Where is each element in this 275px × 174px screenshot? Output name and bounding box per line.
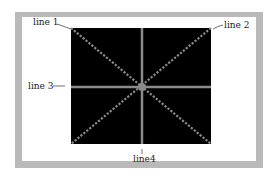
leader-line-2 (213, 25, 223, 29)
label-line-4: line4 (133, 154, 156, 164)
leader-line-1 (57, 24, 71, 29)
label-line-1: line 1 (33, 17, 58, 27)
label-line-2: line 2 (224, 20, 249, 30)
label-line-3: line 3 (28, 81, 53, 91)
center-point (138, 83, 146, 91)
